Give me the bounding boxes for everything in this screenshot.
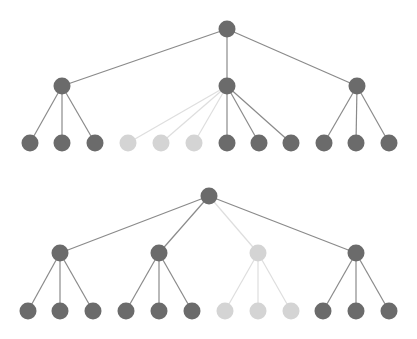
tree-node-inactive (217, 303, 234, 320)
tree-node (381, 135, 398, 152)
tree-edge (30, 86, 62, 143)
tree-node (315, 303, 332, 320)
tree-edge (227, 86, 291, 143)
tree-node (349, 78, 366, 95)
tree-node (251, 135, 268, 152)
tree-edge (28, 253, 60, 311)
tree-edge (194, 86, 227, 143)
tree-edge (227, 29, 357, 86)
tree-edge (225, 253, 258, 311)
tree-edge (324, 86, 357, 143)
tree-node-inactive (153, 135, 170, 152)
tree-node (118, 303, 135, 320)
tree-node (184, 303, 201, 320)
tree-node (54, 135, 71, 152)
tree-node-inactive (283, 303, 300, 320)
tree-node (22, 135, 39, 152)
tree-edge (128, 86, 227, 143)
tree-bottom-edges (28, 196, 389, 311)
tree-edge (126, 253, 159, 311)
tree-edge (227, 86, 259, 143)
tree-top-edges (30, 29, 389, 143)
tree-node-inactive (120, 135, 137, 152)
tree-node (54, 78, 71, 95)
tree-edge (159, 196, 209, 253)
tree-node (20, 303, 37, 320)
tree-node (151, 245, 168, 262)
tree-node (316, 135, 333, 152)
tree-node-inactive (186, 135, 203, 152)
tree-node (85, 303, 102, 320)
tree-edge (258, 253, 291, 311)
tree-node (151, 303, 168, 320)
tree-node (219, 21, 236, 38)
tree-top-nodes (22, 21, 398, 152)
tree-edge (62, 86, 95, 143)
tree-node (201, 188, 218, 205)
tree-node (52, 245, 69, 262)
tree-node (283, 135, 300, 152)
tree-node (381, 303, 398, 320)
tree-diagram-canvas (0, 0, 417, 339)
tree-node (348, 245, 365, 262)
tree-node (348, 303, 365, 320)
tree-bottom (20, 188, 398, 320)
tree-top (22, 21, 398, 152)
tree-node-inactive (250, 245, 267, 262)
tree-node-inactive (250, 303, 267, 320)
tree-edge (60, 253, 93, 311)
tree-edge (60, 196, 209, 253)
tree-edge (62, 29, 227, 86)
tree-edge (356, 86, 357, 143)
tree-edge (356, 253, 389, 311)
tree-edge (161, 86, 227, 143)
tree-node (219, 135, 236, 152)
tree-edge (209, 196, 258, 253)
tree-diagram (0, 0, 417, 339)
tree-edge (159, 253, 192, 311)
tree-node (87, 135, 104, 152)
tree-node (52, 303, 69, 320)
tree-bottom-nodes (20, 188, 398, 320)
tree-edge (357, 86, 389, 143)
tree-edge (209, 196, 356, 253)
tree-node (348, 135, 365, 152)
tree-node (219, 78, 236, 95)
tree-edge (323, 253, 356, 311)
